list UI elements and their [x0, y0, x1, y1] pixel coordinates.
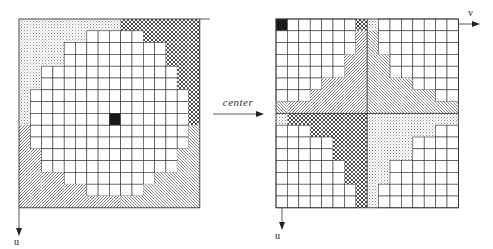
shaded-cell [19, 102, 30, 114]
grid-cell [87, 54, 98, 66]
shaded-cell [424, 125, 435, 137]
grid-cell [98, 137, 109, 149]
grid-cell [132, 137, 143, 149]
shaded-cell [87, 196, 98, 208]
center-arrowhead-icon [256, 111, 264, 117]
grid-cell [87, 113, 98, 125]
grid-cell [98, 78, 109, 90]
grid-cell [310, 54, 321, 66]
shaded-cell [189, 161, 200, 173]
grid-cell [132, 43, 143, 55]
grid-cell [299, 172, 310, 184]
grid-cell [64, 54, 75, 66]
shaded-cell [42, 196, 53, 208]
grid-cell [143, 102, 154, 114]
shaded-cell [367, 161, 378, 173]
shaded-cell [177, 19, 188, 31]
shaded-cell [379, 149, 390, 161]
grid-cell [299, 31, 310, 43]
grid-cell [287, 78, 298, 90]
shaded-cell [310, 125, 321, 137]
grid-cell [276, 90, 287, 102]
grid-cell [30, 102, 41, 114]
grid-cell [299, 43, 310, 55]
grid-cell [310, 19, 321, 31]
grid-cell [333, 196, 344, 208]
grid-cell [436, 172, 447, 184]
shaded-cell [189, 125, 200, 137]
grid-cell [87, 31, 98, 43]
grid-cell [98, 31, 109, 43]
grid-cell [53, 66, 64, 78]
shaded-cell [390, 113, 401, 125]
shaded-cell [390, 90, 401, 102]
shaded-cell [19, 172, 30, 184]
shaded-cell [19, 19, 30, 31]
shaded-cell [76, 184, 87, 196]
grid-cell [109, 102, 120, 114]
grid-cell [401, 19, 412, 31]
shaded-cell [344, 149, 355, 161]
grid-cell [121, 78, 132, 90]
shaded-cell [53, 54, 64, 66]
grid-cell [53, 137, 64, 149]
shaded-cell [344, 137, 355, 149]
grid-cell [322, 196, 333, 208]
grid-cell [424, 19, 435, 31]
shaded-cell [322, 90, 333, 102]
shaded-cell [401, 113, 412, 125]
grid-cell [166, 161, 177, 173]
grid-cell [64, 113, 75, 125]
grid-cell [87, 66, 98, 78]
grid-cell [155, 43, 166, 55]
grid-cell [64, 172, 75, 184]
shaded-cell [177, 161, 188, 173]
grid-cell [42, 125, 53, 137]
grid-cell [424, 172, 435, 184]
shaded-cell [189, 78, 200, 90]
grid-cell [287, 19, 298, 31]
grid-cell [109, 172, 120, 184]
shaded-cell [401, 78, 412, 90]
shaded-cell [310, 90, 321, 102]
grid-cell [121, 31, 132, 43]
shaded-cell [322, 102, 333, 114]
grid-cell [121, 66, 132, 78]
grid-cell [447, 149, 458, 161]
shaded-cell [299, 113, 310, 125]
grid-cell [310, 184, 321, 196]
shaded-cell [413, 90, 424, 102]
grid-cell [333, 54, 344, 66]
grid-cell [413, 172, 424, 184]
grid-cell [87, 149, 98, 161]
shaded-cell [30, 172, 41, 184]
grid-cell [64, 78, 75, 90]
shaded-cell [356, 172, 367, 184]
grid-cell [344, 184, 355, 196]
grid-cell [42, 149, 53, 161]
grid-cell [390, 161, 401, 173]
shaded-cell [367, 102, 378, 114]
grid-cell [76, 43, 87, 55]
grid-cell [76, 113, 87, 125]
grid-cell [64, 66, 75, 78]
grid-cell [143, 54, 154, 66]
grid-cell [87, 172, 98, 184]
shaded-cell [64, 196, 75, 208]
grid-cell [109, 43, 120, 55]
shaded-cell [189, 54, 200, 66]
shaded-cell [87, 19, 98, 31]
grid-cell [310, 66, 321, 78]
grid-cell [166, 113, 177, 125]
shaded-cell [19, 137, 30, 149]
shaded-cell [189, 149, 200, 161]
grid-cell [436, 196, 447, 208]
grid-cell [42, 161, 53, 173]
shaded-cell [379, 161, 390, 173]
grid-cell [322, 54, 333, 66]
grid-cell [436, 66, 447, 78]
grid-cell [379, 196, 390, 208]
shaded-cell [166, 172, 177, 184]
shaded-cell [401, 102, 412, 114]
grid-cell [322, 149, 333, 161]
